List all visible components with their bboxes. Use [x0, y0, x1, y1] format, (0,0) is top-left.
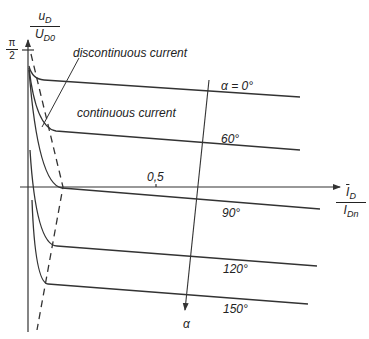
- x-axis-numerator: ID: [336, 186, 366, 203]
- x-den-sub: Dn: [347, 209, 359, 219]
- y-num-sub: D: [45, 15, 52, 25]
- x-axis-label: ID IDn: [336, 186, 366, 219]
- y-axis-numerator: uD: [30, 10, 60, 27]
- x-num-sub: D: [349, 191, 356, 201]
- continuous-current-label: continuous current: [77, 107, 176, 119]
- discontinuous-pointer: [42, 58, 79, 127]
- curve-label-90: 90°: [222, 207, 240, 219]
- y-axis-denominator: UD0: [30, 27, 60, 43]
- boundary-dashed-curve: [31, 54, 63, 330]
- alpha-arrow: [185, 80, 209, 310]
- x-axis-denominator: IDn: [336, 203, 366, 219]
- alpha-arrow-label: α: [183, 318, 190, 330]
- discontinuous-current-label: discontinuous current: [73, 47, 187, 59]
- curve-label-60: 60°: [221, 133, 239, 145]
- curve-alpha-150: [32, 200, 308, 304]
- curve-alpha-0: [29, 66, 300, 97]
- curve-label-alpha-0: α = 0°: [221, 80, 253, 92]
- y-den-sub: D0: [44, 33, 56, 43]
- curve-alpha-90: [29, 70, 320, 209]
- y-tick-den: 2: [6, 50, 18, 61]
- y-den-text: U: [35, 27, 44, 41]
- y-axis-label: uD UD0: [30, 10, 60, 43]
- curve-label-120: 120°: [223, 263, 248, 275]
- curve-alpha-120: [30, 150, 317, 266]
- y-tick-num: π: [6, 38, 18, 50]
- y-tick-label: π 2: [6, 38, 18, 61]
- x-tick-label: 0,5: [147, 171, 164, 183]
- curve-label-150: 150°: [223, 303, 248, 315]
